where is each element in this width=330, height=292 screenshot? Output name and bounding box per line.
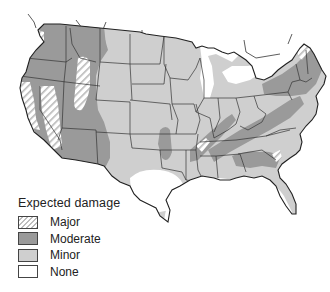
legend-item-moderate: Moderate <box>18 231 120 248</box>
legend-label-moderate: Moderate <box>50 232 101 246</box>
legend-item-none: None <box>18 264 120 281</box>
legend-label-none: None <box>50 265 79 279</box>
zone-none-texas <box>130 170 184 214</box>
legend-item-minor: Minor <box>18 247 120 264</box>
legend-item-major: Major <box>18 214 120 231</box>
legend-label-major: Major <box>50 215 80 229</box>
legend-label-minor: Minor <box>50 248 80 262</box>
legend-swatch-major <box>18 216 38 229</box>
legend-swatch-moderate <box>18 232 38 245</box>
legend-swatch-minor <box>18 249 38 262</box>
legend: Expected damage Major Moderate Minor Non… <box>18 196 120 280</box>
legend-swatch-none <box>18 265 38 278</box>
legend-title: Expected damage <box>18 196 120 210</box>
